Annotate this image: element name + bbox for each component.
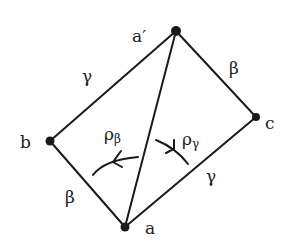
rho-beta-label: ρβ (104, 124, 121, 146)
vertex-c (252, 113, 260, 121)
edge-labels: γ β β γ (65, 58, 239, 207)
rho-beta-symbol: ρ (104, 124, 114, 144)
edge-label-aprime-b: γ (82, 66, 92, 86)
edge-label-c-a: γ (206, 166, 216, 186)
edge-b-a (50, 141, 125, 227)
edge-aprime-c (176, 31, 256, 117)
edge-label-aprime-c: β (229, 58, 239, 78)
label-b: b (20, 132, 31, 152)
rho-gamma-symbol: ρ (182, 129, 192, 149)
edges (50, 31, 256, 227)
rho-gamma-subscript: γ (192, 137, 199, 151)
label-a: a (145, 218, 155, 238)
vertex-aprime (171, 26, 181, 36)
label-aprime: a′ (132, 26, 146, 46)
edge-aprime-a-diagonal (125, 31, 176, 227)
rho-beta-subscript: β (114, 132, 121, 146)
vertex-a (121, 223, 130, 232)
diagram-canvas: a′ b c a γ β β γ ρβ ργ (0, 0, 296, 252)
label-c: c (265, 113, 275, 133)
rho-gamma-label: ργ (182, 129, 199, 151)
edge-label-b-a: β (65, 187, 75, 207)
vertices (46, 26, 261, 232)
vertex-b (46, 137, 55, 146)
